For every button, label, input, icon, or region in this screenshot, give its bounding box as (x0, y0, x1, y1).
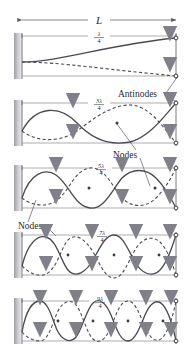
panel-1: λ 4 (14, 30, 178, 79)
antinode-dot (174, 36, 178, 40)
fraction-numerator: λ (97, 30, 101, 37)
node-dot (127, 320, 130, 323)
antinode-dot (174, 166, 178, 170)
panel-3: 5λ 4 (14, 162, 178, 211)
fraction-numerator: 3λ (95, 97, 102, 104)
node-dot (158, 254, 161, 257)
fraction-numerator: 7λ (99, 229, 105, 236)
antinode-dot (174, 206, 178, 210)
antinode-dot (174, 273, 178, 277)
antinode-dot (174, 339, 178, 343)
wall-hatching (14, 165, 22, 211)
antinode-dot (174, 299, 178, 303)
node-dot (154, 187, 157, 190)
annotation-nodes-upper: Nodes (113, 124, 150, 186)
node-dot (57, 320, 60, 323)
leader-line (117, 124, 136, 150)
nodes-label-upper: Nodes (113, 150, 138, 160)
annotation-nodes-lower: Nodes (18, 200, 56, 236)
wave-dashed-1 (22, 62, 176, 76)
antinode-dot (174, 101, 178, 105)
node-dot (92, 320, 95, 323)
wall-hatching (14, 33, 22, 79)
fraction-denominator: 4 (98, 302, 101, 309)
antinode-dot (174, 233, 178, 237)
dimension-L: L (22, 14, 176, 26)
panel-2: 3λ 4 (14, 97, 178, 146)
panel-4: 7λ 4 (14, 229, 178, 278)
antinode-dot (174, 141, 178, 145)
fraction-denominator: 4 (99, 169, 102, 176)
fraction-numerator: 5λ (98, 162, 104, 169)
fraction-denominator: 4 (97, 104, 100, 111)
annotation-antinodes: Antinodes (118, 76, 178, 103)
node-dot (67, 254, 70, 257)
wall-hatching (14, 298, 22, 344)
node-dot (162, 320, 165, 323)
node-dot (113, 254, 116, 257)
wall-hatching (14, 100, 22, 146)
wall-hatching (14, 232, 22, 278)
leader-line (166, 76, 178, 93)
node-dot (88, 187, 91, 190)
standing-wave-figure: L λ 4 Antin (0, 0, 196, 363)
fraction-denominator: 4 (97, 37, 100, 44)
panel-5: 9λ 4 (14, 295, 178, 344)
nodes-label-lower: Nodes (18, 221, 43, 231)
antinodes-label: Antinodes (118, 89, 157, 99)
figure-stage: L λ 4 Antin (0, 0, 196, 363)
dimension-label-L: L (95, 14, 102, 26)
